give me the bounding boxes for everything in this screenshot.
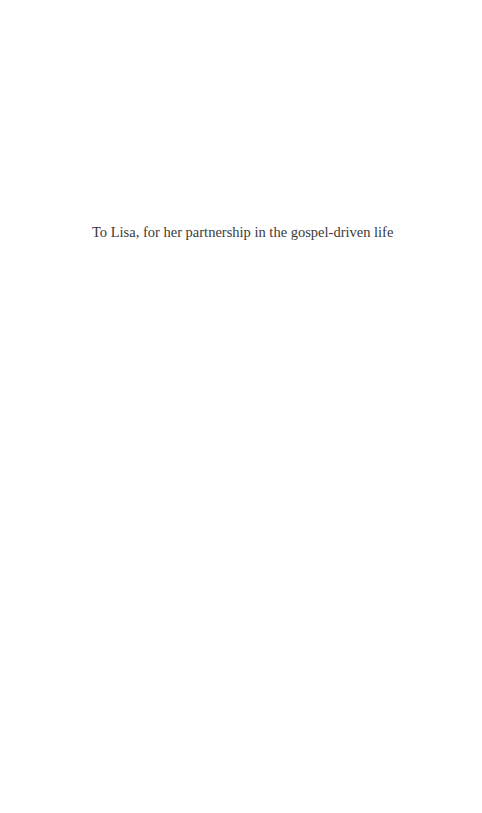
dedication-text: To Lisa, for her partnership in the gosp… — [92, 222, 392, 242]
book-page: To Lisa, for her partnership in the gosp… — [0, 0, 482, 813]
